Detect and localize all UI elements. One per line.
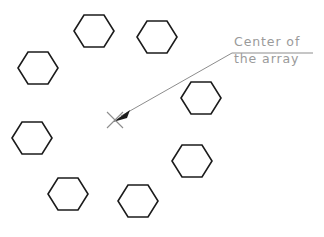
- technical-drawing: Center of the array: [0, 0, 324, 237]
- hex-right-upper[interactable]: [181, 82, 221, 114]
- hexagon-array-group: [12, 15, 221, 217]
- hex-left-upper[interactable]: [18, 52, 58, 84]
- drawing-canvas: Center of the array: [0, 0, 324, 237]
- annotation-line-2: the array: [234, 51, 299, 66]
- hex-right-lower[interactable]: [172, 145, 212, 177]
- annotation-line-1: Center of: [234, 34, 300, 49]
- hex-left-lower[interactable]: [12, 122, 52, 154]
- hex-top-right[interactable]: [137, 21, 177, 53]
- center-point-marker: [107, 112, 123, 128]
- hex-top-left[interactable]: [74, 15, 114, 47]
- hex-bottom-right[interactable]: [118, 185, 158, 217]
- hex-bottom-left[interactable]: [48, 178, 88, 210]
